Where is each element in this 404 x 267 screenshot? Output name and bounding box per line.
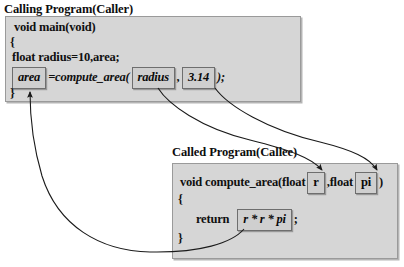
variable-box-pi-literal[interactable]: 3.14 (182, 67, 215, 89)
variable-box-area[interactable]: area (12, 67, 46, 89)
caller-program-caption: Calling Program(Caller) (4, 2, 133, 17)
callee-return-suffix: ; (294, 212, 298, 227)
caller-close-brace: } (10, 86, 15, 101)
callee-close-brace: } (178, 231, 183, 246)
caller-call-statement-line: area =compute_area( radius , 3.14 ); (10, 67, 225, 89)
variable-box-pi[interactable]: pi (355, 172, 377, 194)
variable-box-return-expression[interactable]: r * r * pi (237, 209, 291, 231)
callee-return-line: return r * r * pi ; (196, 209, 298, 231)
caller-call-separator: , (177, 70, 180, 85)
variable-box-r[interactable]: r (307, 172, 324, 194)
callee-signature-prefix: void compute_area(float (180, 175, 305, 190)
callee-return-keyword: return (196, 212, 229, 227)
caller-call-suffix: ); (217, 70, 225, 85)
callee-program-caption: Called Program(Callee) (172, 145, 297, 160)
caller-declaration-line: float radius=10,area; (12, 50, 120, 65)
callee-signature-suffix: ) (379, 175, 383, 190)
caller-signature-line: void main(void) (14, 20, 95, 35)
callee-open-brace: { (178, 192, 183, 207)
caller-call-prefix: =compute_area( (48, 70, 129, 85)
callee-signature-separator: ,float (327, 175, 353, 190)
caller-open-brace: { (10, 35, 15, 50)
diagram-canvas: Calling Program(Caller) void main(void) … (0, 0, 404, 267)
callee-signature-line: void compute_area(float r ,float pi ) (180, 172, 383, 194)
variable-box-radius[interactable]: radius (132, 67, 175, 89)
